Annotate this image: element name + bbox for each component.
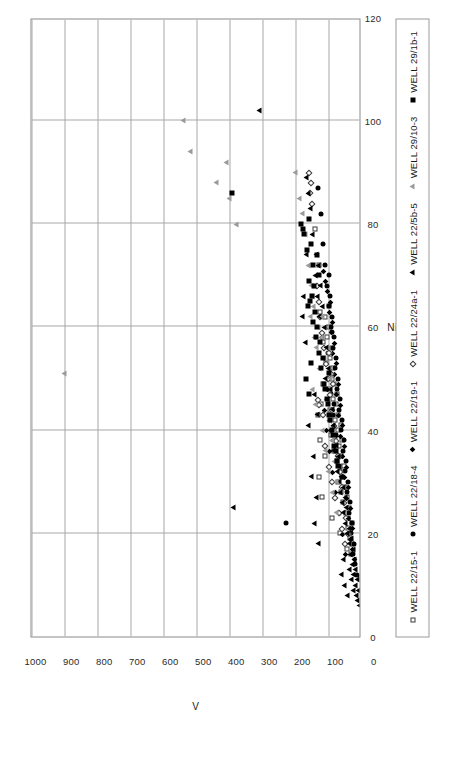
data-point <box>326 417 331 423</box>
data-point <box>316 474 321 479</box>
legend-item-6[interactable]: WELL 29/10-3 <box>407 116 418 203</box>
data-point <box>325 463 332 470</box>
data-point <box>353 592 358 598</box>
data-point <box>316 313 321 319</box>
legend-item-2[interactable]: WELL 22/18-4 <box>407 465 418 551</box>
data-point <box>336 443 341 448</box>
data-point <box>333 361 339 367</box>
data-point <box>329 515 334 520</box>
data-point <box>337 468 342 473</box>
legend-item-1[interactable]: WELL 22/15-1 <box>407 550 418 636</box>
data-point <box>61 370 66 376</box>
data-point <box>326 272 331 277</box>
data-point <box>340 509 345 515</box>
data-point <box>322 453 327 458</box>
data-point <box>320 344 327 351</box>
data-point <box>356 602 359 608</box>
data-point <box>342 474 348 480</box>
data-point <box>339 474 344 479</box>
legend-item-5[interactable]: WELL 22/5b-5 <box>407 203 418 290</box>
data-point <box>316 350 321 355</box>
data-point <box>346 540 351 546</box>
data-point <box>329 376 334 381</box>
data-point <box>339 474 344 479</box>
data-point <box>348 551 353 556</box>
data-point <box>329 314 334 319</box>
data-point <box>312 226 317 231</box>
data-point <box>329 489 334 495</box>
data-point <box>338 433 344 439</box>
data-point <box>311 520 316 526</box>
data-point <box>344 489 349 494</box>
legend: WELL 22/15-1WELL 22/18-4WELL 22/19-1WELL… <box>395 18 429 637</box>
data-point <box>351 556 356 562</box>
data-point <box>328 324 333 329</box>
data-point <box>342 484 347 489</box>
data-point <box>310 262 315 267</box>
data-point <box>339 417 344 422</box>
data-point <box>348 576 353 582</box>
data-point <box>339 531 345 537</box>
data-point <box>346 505 351 510</box>
data-point <box>230 504 235 510</box>
data-point <box>319 313 324 319</box>
data-point <box>328 330 334 336</box>
data-point <box>355 587 359 593</box>
data-point <box>338 571 343 577</box>
data-point <box>330 396 335 401</box>
data-point <box>309 293 314 299</box>
data-point <box>333 478 338 484</box>
data-point <box>331 401 336 406</box>
data-point <box>351 557 357 563</box>
data-point <box>313 282 320 289</box>
data-point <box>330 432 335 437</box>
scatter-chart: 020406080100120 010020030040050060070080… <box>0 0 469 761</box>
data-point <box>335 479 340 484</box>
data-point <box>324 396 329 401</box>
data-point <box>307 298 312 303</box>
data-point <box>322 262 327 267</box>
data-point <box>313 334 318 339</box>
data-point <box>338 525 345 532</box>
data-point <box>330 421 337 428</box>
data-point <box>306 278 311 283</box>
data-point <box>342 520 347 526</box>
legend-item-7[interactable]: WELL 29/1b-1 <box>407 31 418 117</box>
data-point <box>338 427 343 432</box>
data-point <box>319 427 324 433</box>
data-point <box>308 360 313 365</box>
x-tick-label: 100 <box>364 116 380 127</box>
data-point <box>346 566 351 572</box>
data-point <box>309 231 314 237</box>
data-point <box>318 329 325 336</box>
data-point <box>341 582 346 588</box>
data-point <box>320 268 326 274</box>
data-point <box>326 391 333 398</box>
data-point <box>350 551 355 556</box>
data-point <box>344 530 351 537</box>
data-point <box>314 396 321 403</box>
data-point <box>327 299 333 305</box>
data-point <box>311 334 316 340</box>
legend-item-4[interactable]: WELL 22/24a-1 <box>407 289 418 380</box>
data-point <box>316 313 323 320</box>
data-point <box>327 370 334 377</box>
data-point <box>354 576 359 582</box>
data-point <box>326 417 331 423</box>
data-point <box>316 272 321 277</box>
data-point <box>329 437 334 443</box>
data-point <box>302 339 307 345</box>
data-point <box>335 453 340 459</box>
data-point <box>316 262 321 267</box>
data-point <box>321 355 326 361</box>
data-point <box>338 473 343 479</box>
data-point <box>333 442 338 448</box>
data-point <box>318 334 323 340</box>
legend-item-3[interactable]: WELL 22/19-1 <box>407 380 418 465</box>
data-point <box>333 355 338 360</box>
data-point <box>329 380 336 387</box>
data-point <box>351 541 356 546</box>
data-point <box>304 247 309 252</box>
y-axis-title: V <box>192 700 199 711</box>
x-tick-label: 60 <box>367 322 378 333</box>
